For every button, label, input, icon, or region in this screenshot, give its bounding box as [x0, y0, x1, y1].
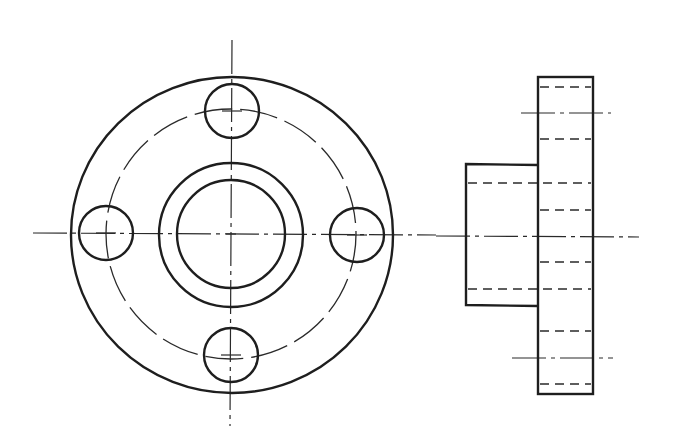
technical-drawing: [0, 0, 674, 442]
front-view: [33, 40, 436, 426]
side-view: [436, 77, 639, 394]
flange-outline: [538, 77, 593, 394]
boss-outline: [466, 164, 538, 306]
vertical-centerline: [230, 40, 232, 426]
